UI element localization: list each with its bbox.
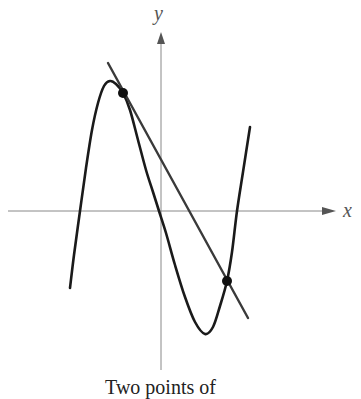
x-axis-label: x — [343, 200, 352, 220]
x-axis — [8, 207, 336, 215]
y-axis-arrow-icon — [157, 32, 165, 44]
y-axis-label: y — [154, 3, 163, 23]
x-axis-arrow-icon — [322, 207, 336, 215]
y-axis — [157, 32, 165, 370]
graph-figure — [0, 0, 361, 399]
cubic-curve — [70, 81, 250, 334]
figure-caption: Two points of — [0, 377, 321, 397]
intersection-point-2 — [222, 276, 232, 286]
intersection-point-1 — [118, 88, 128, 98]
